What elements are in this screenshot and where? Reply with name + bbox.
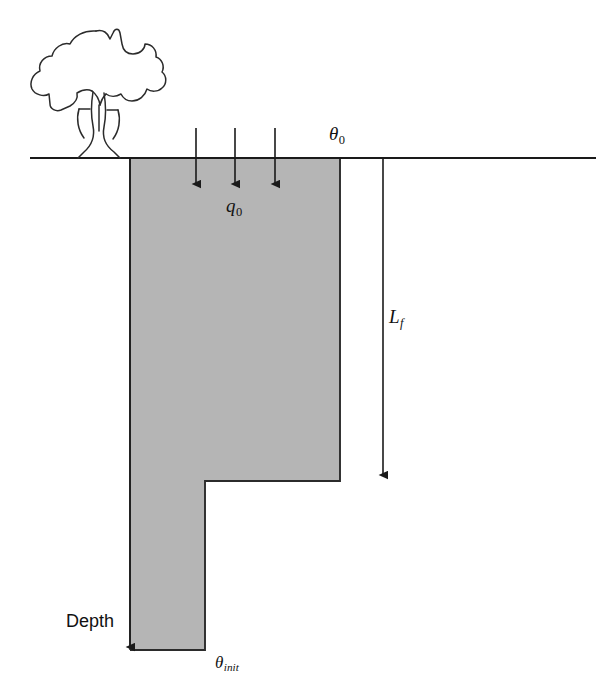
tree-crown-left bbox=[31, 31, 96, 111]
shaded-moisture-profile bbox=[130, 158, 340, 650]
label-q-0-subscript: 0 bbox=[236, 205, 243, 219]
tree-trunk-right bbox=[103, 93, 120, 158]
label-l-f-subscript: f bbox=[400, 316, 404, 330]
profile-fill bbox=[130, 158, 340, 650]
figure-root: θ0 q0 Lf Depth θinit bbox=[0, 0, 606, 695]
label-theta-0-symbol: θ bbox=[329, 123, 338, 144]
label-theta-0: θ0 bbox=[329, 124, 345, 146]
tree-illustration bbox=[31, 29, 166, 158]
label-theta-0-subscript: 0 bbox=[338, 133, 345, 147]
label-theta-init: θinit bbox=[215, 654, 239, 673]
label-l-f-symbol: L bbox=[389, 306, 400, 327]
label-depth: Depth bbox=[66, 612, 114, 630]
tree-root-flare-left bbox=[78, 109, 84, 138]
tree-crown-right bbox=[96, 29, 166, 101]
label-theta-init-subscript: init bbox=[223, 661, 238, 673]
label-l-f: Lf bbox=[389, 307, 404, 329]
label-q-0-symbol: q bbox=[226, 195, 236, 216]
tree-root-flare-right bbox=[113, 110, 119, 139]
tree-trunk-left bbox=[78, 92, 94, 158]
diagram-canvas bbox=[0, 0, 606, 695]
label-q-0: q0 bbox=[226, 196, 242, 218]
